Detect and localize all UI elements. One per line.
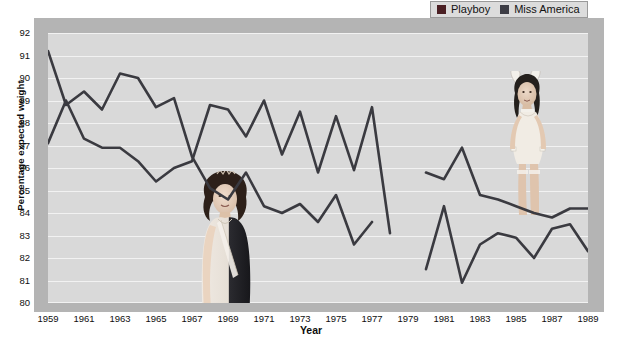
x-tick-label: 1987 [532,314,572,324]
y-tick-label: 82 [2,253,30,263]
square-swatch-icon [437,5,446,14]
y-tick-label: 90 [2,73,30,83]
y-tick-label: 85 [2,186,30,196]
y-tick-label: 84 [2,208,30,218]
series-line-miss-america [48,101,390,234]
y-tick-label: 80 [2,298,30,308]
x-axis-title: Year [0,324,622,336]
chart-legend: Playboy Miss America [430,1,588,18]
y-tick-label: 88 [2,118,30,128]
legend-label-miss-america: Miss America [514,4,579,15]
series-line-playboy [426,206,588,283]
y-tick-label: 89 [2,96,30,106]
y-tick-label: 86 [2,163,30,173]
y-tick-label: 92 [2,28,30,38]
plot-frame [34,18,604,312]
x-tick-label: 1983 [460,314,500,324]
x-tick-label: 1963 [100,314,140,324]
x-tick-label: 1961 [64,314,104,324]
x-tick-label: 1971 [244,314,284,324]
plot-area [48,33,588,303]
x-tick-label: 1967 [172,314,212,324]
legend-entry-miss-america: Miss America [500,4,579,15]
x-tick-label: 1981 [424,314,464,324]
legend-entry-playboy: Playboy [437,4,490,15]
y-tick-label: 87 [2,141,30,151]
series-line-miss-america [426,148,588,218]
y-axis-tick-labels: 92 91 90 89 88 87 86 85 84 83 82 81 80 [0,0,30,344]
series-lines [48,33,588,303]
series-line-playboy [48,51,372,245]
y-tick-label: 91 [2,51,30,61]
x-tick-label: 1959 [28,314,68,324]
x-tick-label: 1975 [316,314,356,324]
y-tick-label: 81 [2,276,30,286]
x-tick-label: 1969 [208,314,248,324]
square-swatch-icon [500,5,509,14]
chart-figure: Playboy Miss America Percentage expected… [0,0,622,344]
x-tick-label: 1977 [352,314,392,324]
x-tick-label: 1979 [388,314,428,324]
legend-label-playboy: Playboy [451,4,490,15]
x-tick-label: 1985 [496,314,536,324]
x-tick-label: 1965 [136,314,176,324]
x-tick-label: 1989 [568,314,608,324]
x-tick-label: 1973 [280,314,320,324]
y-tick-label: 83 [2,231,30,241]
